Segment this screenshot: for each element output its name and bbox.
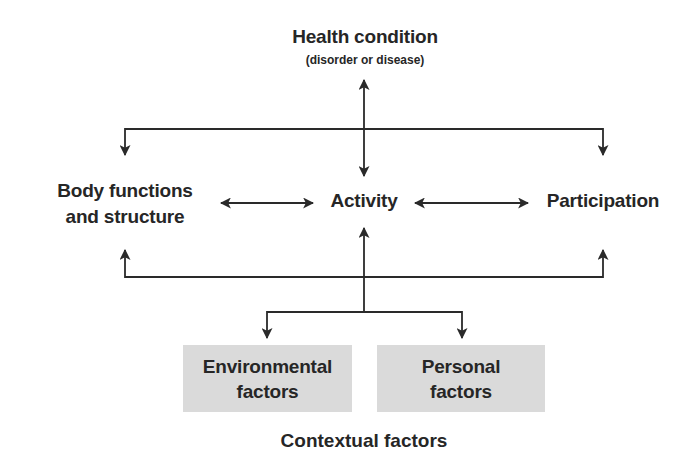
icf-diagram: Health condition (disorder or disease) B… [0,0,700,473]
activity-node: Activity [314,190,414,213]
contextual-factors-label: Contextual factors [264,430,464,453]
health-condition-node: Health condition (disorder or disease) [265,26,465,67]
environmental-factors-box: Environmental factors [183,345,352,412]
body-functions-node: Body functions and structure [25,178,225,230]
personal-factors-box: Personal factors [377,345,545,412]
participation-node: Participation [528,190,678,213]
health-condition-label: Health condition [292,26,438,47]
health-condition-sublabel: (disorder or disease) [265,53,465,67]
body-functions-line2: and structure [25,204,225,230]
environmental-factors-line1: Environmental [203,354,332,379]
body-functions-line1: Body functions [25,178,225,204]
personal-factors-line2: factors [422,379,501,404]
environmental-factors-line2: factors [203,379,332,404]
personal-factors-line1: Personal [422,354,501,379]
